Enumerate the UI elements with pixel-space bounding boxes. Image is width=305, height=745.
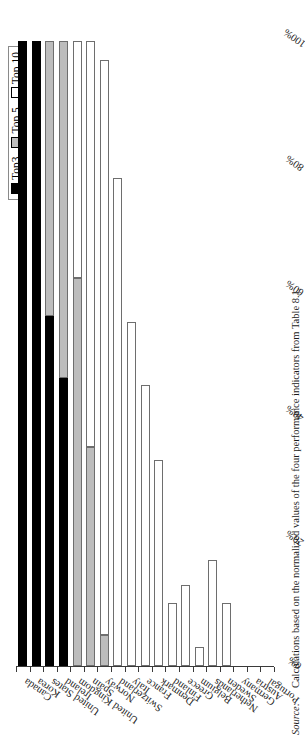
category-tick	[260, 667, 261, 672]
source-label: Source:	[290, 703, 301, 735]
category-tick	[220, 667, 221, 672]
category-tick	[16, 667, 17, 672]
category-tick	[70, 667, 71, 672]
category-axis-labels: CanadaKoreaUnited StatesIrelandUnited Ki…	[16, 42, 274, 667]
value-axis-tick-label: 80%	[284, 153, 305, 173]
category-tick	[247, 667, 248, 672]
rotated-figure-wrapper: Top3 Top 5 Top 10 CanadaKoreaUnited Stat…	[0, 0, 305, 745]
category-tick	[84, 667, 85, 672]
source-text: Calculations based on the normalized val…	[290, 288, 301, 689]
category-tick	[43, 667, 44, 672]
source-note: Source: Calculations based on the normal…	[290, 288, 301, 735]
category-tick	[274, 667, 275, 672]
category-tick	[125, 667, 126, 672]
category-tick	[179, 667, 180, 672]
category-tick	[97, 667, 98, 672]
plot-area: CanadaKoreaUnited StatesIrelandUnited Ki…	[16, 42, 274, 667]
chart-figure: Top3 Top 5 Top 10 CanadaKoreaUnited Stat…	[0, 0, 305, 745]
category-tick	[111, 667, 112, 672]
category-tick	[233, 667, 234, 672]
category-tick	[193, 667, 194, 672]
category-tick	[30, 667, 31, 672]
category-tick	[57, 667, 58, 672]
category-tick	[165, 667, 166, 672]
category-tick	[152, 667, 153, 672]
category-tick	[206, 667, 207, 672]
category-tick	[138, 667, 139, 672]
value-axis-tick-label: 100%	[282, 26, 305, 49]
